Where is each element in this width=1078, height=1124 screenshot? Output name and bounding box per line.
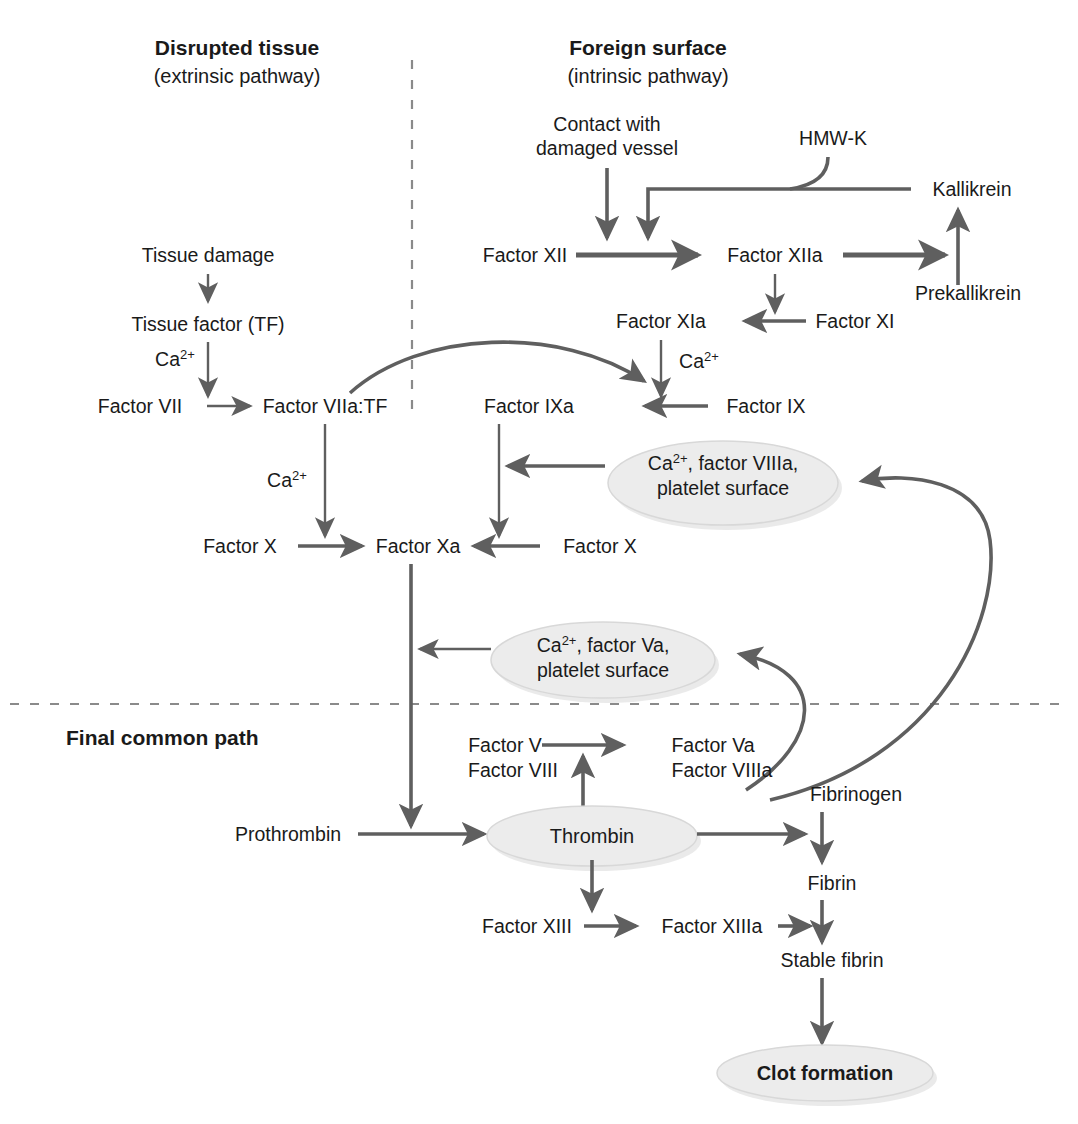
node-factor-xii: Factor XII bbox=[483, 244, 568, 266]
heading-intrinsic-title: Foreign surface bbox=[569, 36, 727, 59]
node-factor-x-right: Factor X bbox=[563, 535, 637, 557]
node-kallikrein: Kallikrein bbox=[932, 178, 1011, 200]
cascade-svg-canvas: Disrupted tissue (extrinsic pathway) For… bbox=[0, 0, 1078, 1124]
node-tissue-factor: Tissue factor (TF) bbox=[131, 313, 284, 335]
label-viiia-complex-line1: Ca2+, factor VIIIa, bbox=[648, 451, 798, 474]
node-thrombin: Thrombin bbox=[550, 825, 634, 847]
node-contact-damaged-vessel-line2: damaged vessel bbox=[536, 137, 678, 159]
node-tissue-damage: Tissue damage bbox=[142, 244, 275, 266]
label-va-complex-line1: Ca2+, factor Va, bbox=[537, 633, 670, 656]
label-va-complex-line2: platelet surface bbox=[537, 659, 669, 681]
node-factor-xa: Factor Xa bbox=[376, 535, 461, 557]
heading-extrinsic-subtitle: (extrinsic pathway) bbox=[154, 65, 321, 87]
node-factor-ixa: Factor IXa bbox=[484, 395, 574, 417]
node-factor-vii: Factor VII bbox=[98, 395, 183, 417]
node-factor-x-left: Factor X bbox=[203, 535, 277, 557]
node-hmwk: HMW-K bbox=[799, 127, 867, 149]
label-ca-extrinsic-x: Ca2+ bbox=[267, 468, 307, 491]
node-factor-viia-tf: Factor VIIa:TF bbox=[263, 395, 388, 417]
node-stable-fibrin: Stable fibrin bbox=[781, 949, 884, 971]
node-factor-ix: Factor IX bbox=[726, 395, 805, 417]
node-fibrin: Fibrin bbox=[808, 872, 857, 894]
coagulation-cascade-diagram: Disrupted tissue (extrinsic pathway) For… bbox=[0, 0, 1078, 1124]
node-factor-v: Factor V bbox=[468, 734, 542, 756]
node-prothrombin: Prothrombin bbox=[235, 823, 341, 845]
node-factor-xi: Factor XI bbox=[815, 310, 894, 332]
node-factor-xia: Factor XIa bbox=[616, 310, 706, 332]
arrow-factor-viia-tf-to-factor-ixa-curve bbox=[350, 342, 644, 393]
node-contact-damaged-vessel-line1: Contact with bbox=[553, 113, 660, 135]
node-factor-viii: Factor VIII bbox=[468, 759, 558, 781]
heading-final-common-path: Final common path bbox=[66, 726, 259, 749]
node-factor-xiii: Factor XIII bbox=[482, 915, 572, 937]
curve-hmwk-to-feedback-line bbox=[790, 157, 828, 189]
node-fibrinogen: Fibrinogen bbox=[810, 783, 902, 805]
label-ca-extrinsic-tf: Ca2+ bbox=[155, 347, 195, 370]
heading-intrinsic-subtitle: (intrinsic pathway) bbox=[567, 65, 728, 87]
node-factor-xiiia: Factor XIIIa bbox=[662, 915, 763, 937]
node-factor-va: Factor Va bbox=[671, 734, 754, 756]
label-ca-intrinsic-ix: Ca2+ bbox=[679, 349, 719, 372]
arrow-kallikrein-feedback-to-factor-xii bbox=[648, 189, 911, 238]
heading-extrinsic-title: Disrupted tissue bbox=[155, 36, 320, 59]
node-factor-xiia: Factor XIIa bbox=[727, 244, 823, 266]
node-factor-viiia: Factor VIIIa bbox=[672, 759, 773, 781]
node-clot-formation: Clot formation bbox=[757, 1062, 894, 1084]
node-prekallikrein: Prekallikrein bbox=[915, 282, 1021, 304]
label-viiia-complex-line2: platelet surface bbox=[657, 477, 789, 499]
arrow-factor-viiia-feedback-to-viiia-complex bbox=[770, 478, 991, 800]
